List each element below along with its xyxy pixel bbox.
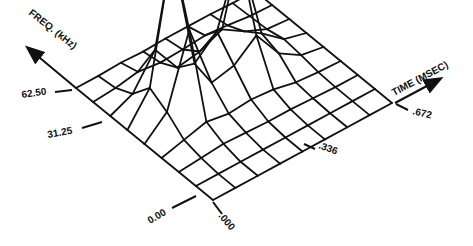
mesh-line [233,0,255,3]
mesh-line [98,76,115,88]
mesh-line [358,75,375,89]
mesh-line [234,66,251,100]
mesh-line [179,158,201,172]
mesh-line [289,19,306,33]
freq-tick-label-62: 62.50 [21,86,48,100]
mesh-line [324,47,341,61]
mesh-line [179,172,196,186]
mesh-line [196,186,213,200]
mesh-line [291,98,313,109]
mesh-line [274,82,296,89]
mesh-line [306,33,323,47]
mesh-line [251,89,273,99]
mesh-line [268,122,285,138]
mesh-line [241,150,263,162]
mesh-line [127,88,149,130]
mesh-line [218,162,240,174]
mesh-line [267,19,289,29]
mesh-line [255,0,272,5]
mesh-line [121,63,138,72]
mesh-line [241,162,258,176]
mesh-line [280,152,302,164]
mesh-line [145,112,167,144]
mesh-line [246,133,263,150]
mesh-line [224,133,246,144]
mesh-line [196,174,218,186]
mesh-line [218,174,235,188]
freq-tick-label-0: 0.00 [146,206,169,225]
mesh-line [217,32,234,66]
time-tick-672 [396,104,408,110]
mesh-line [296,82,313,98]
mesh-line [76,76,98,88]
mesh-line [121,52,143,63]
time-axis-label: TIME (MSEC) [390,59,450,98]
mesh-line [246,122,268,133]
mesh-line [313,98,330,113]
mesh-line [284,39,301,55]
mesh-line [166,39,183,50]
mesh-line [296,72,318,82]
freq-tick-62 [55,90,72,92]
freq-tick-label-31: 31.25 [46,125,73,140]
mesh-line [206,114,228,122]
mesh-line [301,47,323,55]
mesh-line [234,35,256,65]
mesh-line [233,3,250,16]
mesh-line [291,109,308,125]
surface-plot: FREQ. (kHz) TIME (MSEC) 62.50 31.25 0.00… [0,0,473,246]
mesh-line [284,33,306,39]
time-tick-0 [213,202,222,214]
mesh-line [110,116,127,130]
mesh-line [285,125,307,137]
freq-axis-label: FREQ. (kHz) [27,7,79,51]
freq-axis-arrow [28,48,76,88]
mesh-line [301,55,318,72]
mesh-line [272,5,289,19]
mesh-line [201,144,223,158]
mesh-line [285,138,302,152]
mesh-line [212,83,229,114]
mesh-line [245,31,262,33]
mesh-line [145,144,162,158]
mesh-line [162,158,179,172]
mesh-line [229,114,246,133]
mesh-line [353,89,375,101]
mesh-line [330,113,347,127]
mesh-line [263,138,285,150]
mesh-line [116,72,138,88]
mesh-line [76,88,93,102]
mesh-line [184,122,206,140]
mesh-line [353,101,370,115]
mesh-line [347,115,369,127]
mesh-line [279,53,296,82]
mesh-line [229,100,251,114]
mesh-line [116,88,133,94]
freq-tick-0 [172,196,196,208]
mesh-line [279,53,301,55]
freq-tick-31 [82,122,102,128]
mesh-line [335,87,352,101]
mesh-line [93,88,115,102]
mesh-line [201,158,218,174]
mesh-line [98,63,120,76]
mesh-line [224,144,241,162]
mesh-line [162,140,184,158]
mesh-line [341,61,358,75]
mesh-line [127,130,144,144]
mesh-line [313,87,335,98]
mesh-line [166,26,188,38]
mesh-line [308,113,330,125]
mesh-line [258,164,280,176]
mesh-line [250,5,272,16]
mesh-line [150,88,167,112]
mesh-line [308,125,325,139]
mesh-line [251,100,268,122]
mesh-line [268,109,290,121]
mesh-line [274,89,291,109]
mesh-line [318,61,340,72]
mesh-line [212,66,234,83]
mesh-line [263,150,280,164]
mesh-line [335,75,357,87]
time-tick-label-672: .672 [412,105,434,120]
